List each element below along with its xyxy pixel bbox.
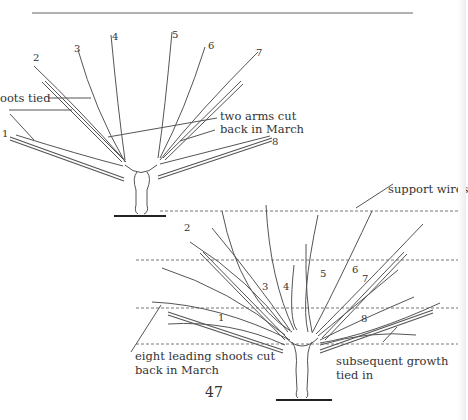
bottom-branch-number-8: 8	[361, 313, 367, 324]
eight-leading-shoots-label-line1: eight leading shoots cut	[135, 350, 275, 363]
top-branch-number-4: 4	[112, 31, 118, 42]
top-branch-number-7: 7	[256, 47, 262, 58]
bottom-branch-number-6: 6	[352, 264, 358, 275]
page-number: 47	[205, 384, 223, 400]
support-wires-label: support wires	[388, 183, 468, 196]
top-branch-number-6: 6	[208, 40, 214, 51]
two-arms-cut-label-line2: back in March	[220, 123, 304, 136]
top-branch-number-8: 8	[272, 136, 278, 147]
subsequent-growth-label-line1: subsequent growth	[336, 355, 448, 368]
bottom-branch-number-2: 2	[184, 222, 190, 233]
subsequent-growth-label-line2: tied in	[336, 369, 373, 382]
bottom-branch-number-4: 4	[283, 281, 289, 292]
bottom-branch-number-1: 1	[218, 312, 224, 323]
bottom-branch-number-5: 5	[320, 268, 326, 279]
shoots-tied-label: oots tied	[0, 92, 51, 105]
page-edge-shadow	[458, 0, 466, 420]
eight-leading-shoots-label-line2: back in March	[135, 364, 219, 377]
bottom-branch-number-7: 7	[362, 273, 368, 284]
top-branch-number-3: 3	[74, 43, 80, 54]
bottom-branch-number-3: 3	[262, 281, 268, 292]
top-branch-number-5: 5	[172, 29, 178, 40]
top-branch-number-1: 1	[2, 128, 8, 139]
top-branch-number-2: 2	[33, 52, 39, 63]
